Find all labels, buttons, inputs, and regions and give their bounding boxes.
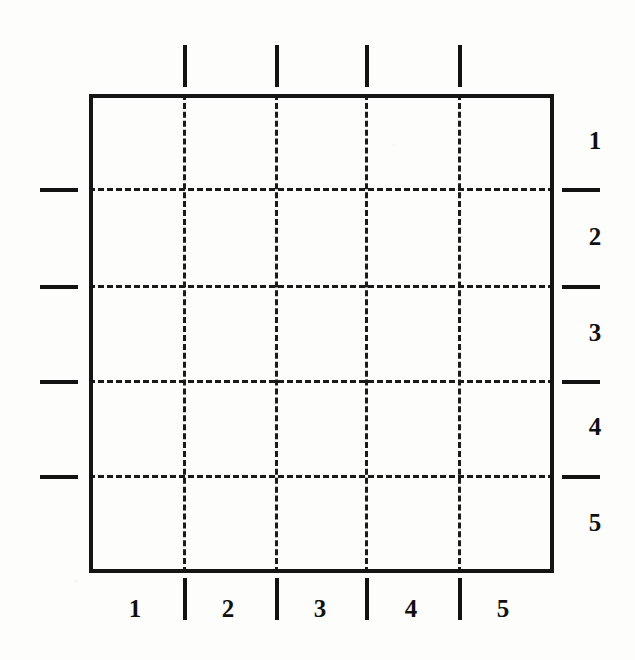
column-label-4: 4 xyxy=(394,596,428,621)
tick-left-1 xyxy=(40,188,78,192)
tick-right-1 xyxy=(562,188,600,192)
tick-right-3 xyxy=(562,380,600,384)
column-label-2: 2 xyxy=(211,596,245,621)
tick-bottom-1 xyxy=(183,578,187,620)
tick-left-3 xyxy=(40,380,78,384)
tick-bottom-4 xyxy=(458,578,462,620)
grid-square-border xyxy=(89,94,554,573)
column-label-1: 1 xyxy=(118,596,152,621)
tick-bottom-3 xyxy=(365,578,369,620)
row-label-4: 4 xyxy=(578,414,612,439)
column-label-3: 3 xyxy=(303,596,337,621)
row-label-3: 3 xyxy=(578,320,612,345)
tick-top-2 xyxy=(275,45,279,87)
column-label-5: 5 xyxy=(486,596,520,621)
tick-bottom-2 xyxy=(275,578,279,620)
row-label-5: 5 xyxy=(578,510,612,535)
tick-top-3 xyxy=(365,45,369,87)
tick-top-1 xyxy=(183,45,187,87)
tick-left-4 xyxy=(40,475,78,479)
row-label-1: 1 xyxy=(578,128,612,153)
row-label-2: 2 xyxy=(578,224,612,249)
tick-left-2 xyxy=(40,285,78,289)
figure-canvas: 1 2 3 4 5 1 2 3 4 5 xyxy=(0,0,635,660)
tick-right-4 xyxy=(562,475,600,479)
tick-right-2 xyxy=(562,285,600,289)
tick-top-4 xyxy=(458,45,462,87)
